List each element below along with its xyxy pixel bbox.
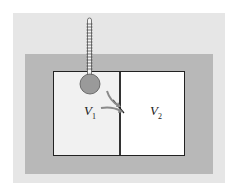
v2-symbol: V	[150, 103, 158, 118]
label-v1: V1	[84, 103, 96, 121]
v1-symbol: V	[84, 103, 92, 118]
diagram-overlay	[0, 0, 236, 189]
label-v2: V2	[150, 103, 162, 121]
v2-subscript: 2	[158, 112, 162, 121]
v1-subscript: 1	[92, 112, 96, 121]
thermometer-icon	[80, 18, 100, 94]
flow-arrows-icon	[101, 91, 123, 113]
